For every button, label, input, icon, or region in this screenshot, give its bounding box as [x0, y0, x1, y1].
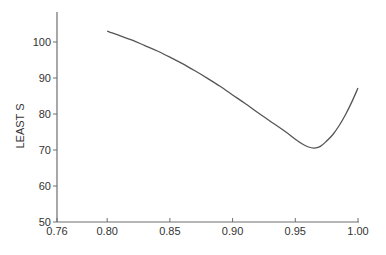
y-tick-label: 80: [39, 108, 51, 120]
x-tick-label: 0.85: [159, 225, 180, 237]
chart-canvas: 5060708090100 0.760.800.850.900.951.00 L…: [0, 0, 386, 255]
line-chart: 5060708090100 0.760.800.850.900.951.00 L…: [0, 0, 386, 255]
x-tick-label: 0.80: [96, 225, 117, 237]
y-tick-label: 100: [33, 36, 51, 48]
y-axis-label: LEAST S: [14, 103, 26, 148]
x-tick-label: 0.90: [222, 225, 243, 237]
y-axis: 5060708090100: [33, 12, 57, 228]
x-tick-label: 0.95: [285, 225, 306, 237]
data-series-line: [107, 31, 358, 148]
y-tick-label: 70: [39, 144, 51, 156]
x-axis: 0.760.800.850.900.951.00: [46, 218, 368, 237]
y-tick-label: 90: [39, 72, 51, 84]
y-tick-label: 60: [39, 180, 51, 192]
x-tick-label: 1.00: [347, 225, 368, 237]
x-tick-label: 0.76: [46, 225, 67, 237]
